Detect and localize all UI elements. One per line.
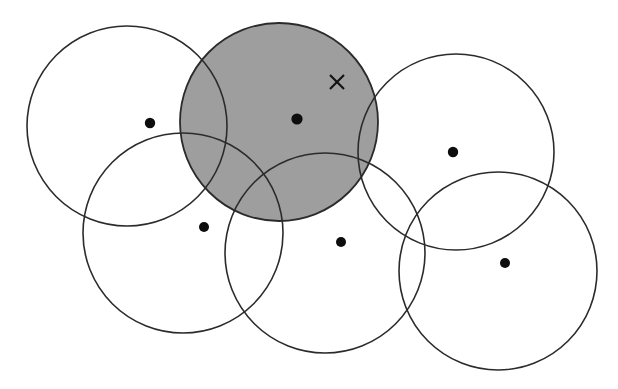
point-5 [336,237,346,247]
diagram-canvas [0,0,618,389]
point-2 [291,113,302,124]
circle-shaded-top-center [180,23,378,221]
point-6 [500,258,510,268]
point-4 [199,222,209,232]
point-1 [145,118,155,128]
circles-diagram-svg [0,0,618,389]
point-3 [448,147,458,157]
